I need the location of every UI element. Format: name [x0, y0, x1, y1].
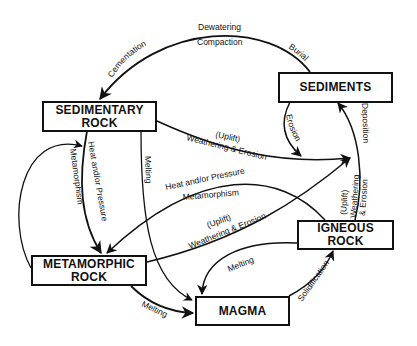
label-solidification: Solidification: [295, 258, 331, 303]
node-magma: MAGMA: [195, 296, 290, 326]
label-melting-igneous: Melting: [226, 254, 255, 274]
metamorphic-label-line2: ROCK: [71, 271, 107, 284]
node-sediments: SEDIMENTS: [278, 72, 393, 103]
metamorphic-label-line1: METAMORPHIC: [43, 258, 135, 271]
sedimentary-label-line1: SEDIMENTARY: [55, 104, 143, 117]
diagram-arrows: Cementation Dewatering Compaction Burial…: [0, 0, 417, 346]
node-igneous-rock: IGNEOUS ROCK: [297, 220, 394, 250]
magma-label: MAGMA: [219, 305, 267, 318]
node-sedimentary-rock: SEDIMENTARY ROCK: [42, 101, 157, 132]
rock-cycle-diagram: Cementation Dewatering Compaction Burial…: [0, 0, 417, 346]
label-cementation: Cementation: [105, 38, 148, 79]
label-deposition: Deposition: [360, 103, 371, 144]
node-metamorphic-rock: METAMORPHIC ROCK: [31, 255, 147, 286]
label-metamorphism-2: Metamorphism: [182, 187, 239, 202]
label-compaction: Compaction: [197, 37, 243, 47]
sedimentary-label-line2: ROCK: [81, 117, 117, 130]
label-erosion-3: & Erosion: [357, 178, 370, 216]
label-heat-pressure-1: Heat and/or Pressure: [86, 141, 110, 223]
label-melting-sedimentary: Melting: [143, 156, 154, 184]
igneous-label-line2: ROCK: [327, 235, 363, 248]
label-melting-metamorphic: Melting: [140, 299, 169, 320]
label-dewatering: Dewatering: [198, 22, 241, 32]
sediments-label: SEDIMENTS: [300, 81, 372, 94]
arrow-igneous-melting: [202, 243, 297, 294]
